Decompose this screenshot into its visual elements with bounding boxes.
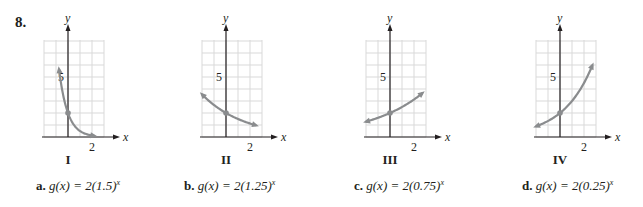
svg-text:2: 2 (581, 140, 587, 154)
svg-text:y: y (556, 11, 563, 25)
svg-text:x: x (444, 130, 451, 144)
svg-text:x: x (280, 130, 287, 144)
option-a: a. g(x) = 2(1.5)x (36, 178, 120, 194)
svg-text:5: 5 (216, 70, 222, 84)
svg-text:x: x (614, 130, 621, 144)
option-d: d. g(x) = 2(0.25)x (522, 178, 613, 194)
graphs-area: yx25yx25yx25yx25 (0, 0, 643, 170)
svg-text:y: y (222, 11, 229, 25)
graph-label-2: II (206, 152, 246, 168)
option-c: c. g(x) = 2(0.75)x (354, 178, 444, 194)
svg-text:2: 2 (247, 140, 253, 154)
graph-label-4: IV (540, 152, 580, 168)
svg-text:5: 5 (550, 70, 556, 84)
svg-text:y: y (64, 11, 71, 25)
svg-text:5: 5 (380, 70, 386, 84)
svg-text:y: y (386, 11, 393, 25)
graph-label-1: I (48, 152, 88, 168)
svg-text:2: 2 (411, 140, 417, 154)
graph-label-3: III (370, 152, 410, 168)
svg-text:x: x (122, 130, 129, 144)
option-b: b. g(x) = 2(1.25)x (184, 178, 275, 194)
svg-text:2: 2 (89, 140, 95, 154)
